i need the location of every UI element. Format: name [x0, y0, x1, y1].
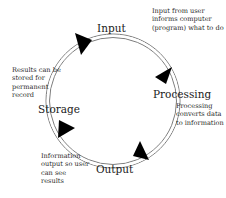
stage-description-storage: Results can be stored for permanent reco… — [12, 66, 68, 99]
stage-label-processing: Processing — [153, 89, 211, 100]
cycle-diagram: Input Processing Output Storage Input fr… — [0, 0, 226, 198]
arrow-processing-to-output-icon — [133, 141, 149, 160]
stage-description-output: Information output so user can see resul… — [41, 152, 91, 185]
stage-label-output: Output — [96, 164, 133, 175]
stage-description-input: Input from user informs computer (progra… — [152, 7, 226, 32]
stage-label-storage: Storage — [38, 104, 80, 115]
stage-description-processing: Processing converts data to information — [176, 102, 226, 127]
arrow-input-to-processing-icon — [155, 67, 172, 84]
stage-label-input: Input — [97, 23, 126, 34]
arrow-output-to-storage-icon — [58, 120, 75, 138]
